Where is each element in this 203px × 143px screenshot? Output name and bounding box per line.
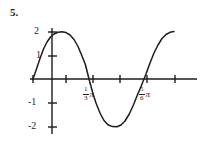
y-tick-label-1: 1	[36, 50, 41, 60]
x-tick-label-one-third-pi: 1 3 π	[83, 86, 94, 103]
x-tick-label-five-sixths-pi: 5 6 π	[139, 86, 150, 103]
fraction-denominator: 3	[83, 95, 89, 102]
fraction-one-third: 1 3	[83, 86, 89, 103]
fraction-numerator: 5	[139, 86, 145, 93]
fraction-five-sixths: 5 6	[139, 86, 145, 103]
figure-container: 5. 2 1 -1 -2 1 3 π	[0, 0, 203, 143]
fraction-denominator: 6	[139, 95, 145, 102]
fraction-numerator: 1	[83, 86, 89, 93]
y-tick-label-2: 2	[34, 26, 39, 36]
y-tick-label-minus-1: -1	[28, 97, 36, 107]
pi-symbol: π	[90, 90, 95, 99]
pi-symbol: π	[146, 90, 151, 99]
axes-group	[30, 28, 197, 134]
y-tick-label-minus-2: -2	[28, 121, 36, 131]
